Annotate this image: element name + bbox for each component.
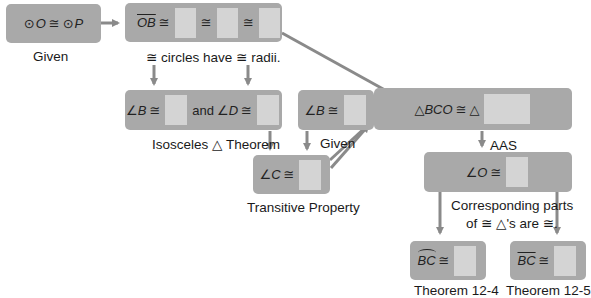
node-given-circles: ⊙ O ≅ ⊙ P — [6, 4, 101, 43]
congruent-symbol: ≅ — [284, 167, 295, 182]
node-triangles: △BCO ≅ △ — [374, 88, 572, 130]
blank-given-angle[interactable] — [344, 95, 366, 125]
congruent-symbol: ≅ — [456, 102, 467, 117]
node-radii: OB ≅ ≅ ≅ — [125, 3, 282, 42]
reason-radii: ≅ circles have ≅ radii. — [146, 49, 280, 65]
reason-cpctc-line2: of ≅ △'s are ≅. — [466, 215, 558, 231]
circle-icon: ⊙ — [63, 16, 74, 31]
node-given-angle: ∠B ≅ — [298, 90, 374, 130]
blank-angle-c[interactable] — [299, 160, 321, 190]
angle-b: ∠B — [304, 103, 324, 118]
blank-radius-1[interactable] — [175, 8, 196, 38]
reason-cpctc-line1: Corresponding parts — [451, 198, 573, 213]
triangle-bco: △BCO — [414, 102, 452, 117]
triangle-icon: △ — [470, 102, 480, 117]
blank-angle-o[interactable] — [506, 157, 528, 187]
blank-radius-3[interactable] — [259, 8, 280, 38]
congruent-symbol: ≅ — [490, 165, 501, 180]
arc-bc: BC — [418, 253, 436, 268]
angle-c: ∠C — [260, 167, 281, 182]
congruent-symbol: ≅ — [539, 253, 550, 268]
congruent-symbol: ≅ — [49, 16, 60, 31]
chord-bc: BC — [518, 253, 536, 268]
circle-o: O — [36, 16, 46, 31]
reason-theorem-12-5: Theorem 12-5 — [506, 283, 591, 298]
reason-transitive: Transitive Property — [247, 200, 360, 215]
node-isosceles: ∠B ≅ and ∠D ≅ — [125, 90, 282, 130]
reason-given-2: Given — [320, 136, 355, 151]
congruent-symbol: ≅ — [159, 15, 170, 30]
angle-o: ∠O — [466, 165, 488, 180]
node-chord-bc: BC ≅ — [510, 241, 586, 280]
node-transitive: ∠C ≅ — [253, 155, 330, 194]
circle-p: P — [75, 16, 84, 31]
congruent-symbol: ≅ — [241, 103, 252, 118]
angle-d: ∠D — [217, 103, 238, 118]
angle-b: ∠B — [126, 103, 146, 118]
circle-icon: ⊙ — [24, 16, 35, 31]
and-text: and — [192, 103, 214, 118]
blank-chord[interactable] — [554, 246, 576, 276]
blank-triangle[interactable] — [484, 94, 530, 124]
blank-angle-d[interactable] — [257, 95, 279, 125]
congruent-symbol: ≅ — [328, 103, 339, 118]
blank-radius-2[interactable] — [217, 8, 238, 38]
congruent-symbol: ≅ — [243, 15, 254, 30]
blank-arc[interactable] — [454, 246, 476, 276]
congruent-symbol: ≅ — [201, 15, 212, 30]
reason-isosceles: Isosceles △ Theorem — [152, 136, 280, 152]
congruent-symbol: ≅ — [149, 103, 160, 118]
blank-angle-b[interactable] — [165, 95, 187, 125]
node-angle-o: ∠O ≅ — [424, 152, 572, 192]
congruent-symbol: ≅ — [439, 253, 450, 268]
segment-ob: OB — [137, 15, 156, 30]
reason-given-1: Given — [33, 49, 68, 64]
reason-theorem-12-4: Theorem 12-4 — [414, 283, 499, 298]
node-arc-bc: BC ≅ — [410, 241, 486, 280]
reason-aas: AAS — [490, 138, 517, 153]
